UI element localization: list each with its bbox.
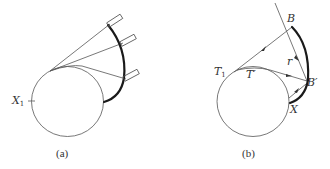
ray-a-1	[50, 24, 110, 71]
label-b: B	[286, 12, 295, 25]
label-r: r	[287, 55, 293, 68]
tool-rect-2	[120, 34, 136, 46]
diagram: X1 (a) B r B′ X T1 T′ (b)	[0, 0, 330, 169]
ray-a-2	[50, 43, 123, 71]
thick-arc-b	[290, 27, 308, 103]
label-x1: X1	[11, 94, 24, 108]
circle-a	[32, 67, 104, 137]
label-b-prime: B′	[306, 76, 318, 89]
arrow-t1b	[261, 46, 266, 51]
label-t1: T1	[214, 65, 226, 79]
label-x: X	[289, 103, 299, 116]
panel-a: X1 (a)	[11, 14, 139, 160]
label-t-prime: T′	[246, 68, 256, 81]
panel-b: B r B′ X T1 T′ (b)	[214, 3, 318, 160]
caption-a: (a)	[56, 147, 69, 160]
caption-b: (b)	[242, 147, 255, 160]
thick-arc-a	[104, 25, 124, 102]
